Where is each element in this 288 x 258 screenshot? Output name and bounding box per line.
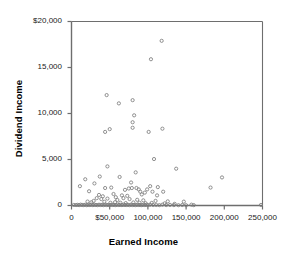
tick-marks <box>68 22 263 210</box>
data-point <box>123 188 126 191</box>
data-point <box>140 193 143 196</box>
data-point <box>104 130 107 133</box>
data-point <box>105 94 108 97</box>
data-point <box>149 58 152 61</box>
data-point <box>154 199 157 202</box>
data-point <box>161 127 164 130</box>
data-point <box>108 128 111 131</box>
data-point <box>166 200 169 203</box>
scatter-chart: 05,00010,00015,000$20,0000$50,000100,000… <box>0 0 287 258</box>
data-point <box>104 186 107 189</box>
data-point <box>110 186 113 189</box>
data-point <box>131 121 134 124</box>
data-point <box>182 200 185 203</box>
data-point <box>87 190 90 193</box>
data-point <box>175 167 178 170</box>
data-point <box>93 182 96 185</box>
data-point <box>160 39 163 42</box>
data-point <box>220 176 223 179</box>
data-point <box>151 190 154 193</box>
data-point <box>98 175 101 178</box>
data-point <box>142 199 145 202</box>
data-point <box>97 193 100 196</box>
data-point <box>162 190 165 193</box>
data-point <box>155 194 158 197</box>
data-point <box>209 186 212 189</box>
y-tick-label: $20,000 <box>0 16 62 25</box>
data-point <box>126 194 129 197</box>
y-axis-title: Dividend Income <box>13 49 24 189</box>
data-point <box>122 197 125 200</box>
data-point <box>129 181 132 184</box>
y-tick-label: 15,000 <box>0 62 62 71</box>
y-tick-label: 10,000 <box>0 108 62 117</box>
data-point <box>149 185 152 188</box>
data-point <box>106 197 109 200</box>
data-point <box>86 200 89 203</box>
data-point <box>146 188 149 191</box>
y-tick-label: 0 <box>0 200 62 209</box>
data-point <box>134 171 137 174</box>
x-tick-label: 250,000 <box>233 213 288 222</box>
data-point <box>78 185 81 188</box>
data-point <box>147 130 150 133</box>
data-point <box>84 178 87 181</box>
data-point <box>100 197 103 200</box>
data-point <box>133 114 136 117</box>
data-point <box>131 99 134 102</box>
data-point <box>128 197 131 200</box>
data-point <box>118 175 121 178</box>
data-point <box>112 192 115 195</box>
data-point <box>152 157 155 160</box>
data-point <box>136 198 139 201</box>
data-point <box>95 197 98 200</box>
y-tick-label: 5,000 <box>0 154 62 163</box>
data-point <box>131 126 134 129</box>
data-point <box>156 186 159 189</box>
data-point-series <box>72 39 262 207</box>
data-point <box>106 165 109 168</box>
data-point <box>117 102 120 105</box>
data-point <box>143 191 146 194</box>
x-axis-title: Earned Income <box>0 236 287 247</box>
